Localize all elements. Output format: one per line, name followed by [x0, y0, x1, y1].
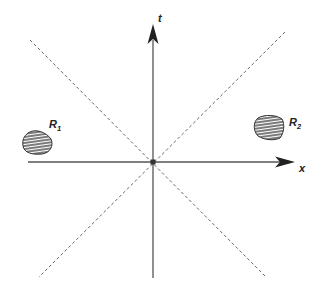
region-r1-shape — [23, 131, 52, 154]
x-axis-label: x — [298, 162, 306, 174]
region-r2-label: R2 — [289, 116, 302, 131]
light-cone-line-left-to-right — [30, 40, 266, 277]
origin-point — [151, 160, 156, 165]
light-cone-line-right-to-left — [39, 32, 285, 277]
region-r2-shape — [254, 115, 283, 139]
spacetime-diagram: t x R1 R2 — [0, 0, 325, 295]
t-axis-label: t — [158, 12, 163, 24]
t-axis — [148, 24, 159, 278]
x-axis — [28, 157, 295, 168]
region-r1-label: R1 — [49, 118, 61, 133]
